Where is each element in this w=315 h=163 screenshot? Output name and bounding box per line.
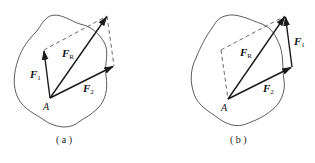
- label-f2: F2: [82, 82, 94, 96]
- vector-fr: [228, 17, 285, 99]
- force-diagram: F1 F2 FR A ( a ) F1 F2 FR A ( b ): [0, 0, 315, 163]
- rigid-body-outline: [14, 15, 107, 127]
- caption-a: ( a ): [56, 134, 72, 146]
- label-fr: FR: [239, 46, 252, 60]
- panel-b: F1 F2 FR A ( b ): [191, 15, 305, 146]
- dashed-side-left: [221, 50, 228, 99]
- caption-b: ( b ): [230, 134, 247, 146]
- vector-f1: [44, 51, 50, 98]
- vector-fr: [50, 17, 107, 98]
- point-a-label: A: [220, 102, 228, 113]
- panel-a: F1 F2 FR A ( a ): [14, 15, 114, 146]
- label-f2: F2: [262, 82, 274, 96]
- point-a-label: A: [42, 101, 50, 112]
- dashed-side-f2-parallel: [107, 16, 114, 66]
- label-f1: F1: [29, 68, 41, 82]
- label-f1: F1: [293, 35, 305, 49]
- rigid-body-outline: [191, 15, 284, 126]
- vector-f2: [50, 67, 113, 99]
- vector-f2: [228, 68, 291, 100]
- label-fr: FR: [61, 47, 74, 61]
- dashed-side-top: [221, 16, 285, 50]
- vector-f1: [286, 17, 293, 67]
